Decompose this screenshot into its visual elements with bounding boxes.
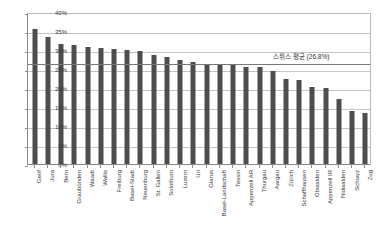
x-axis-tick-mark xyxy=(351,165,352,168)
y-axis-tick-label: 25% xyxy=(43,67,67,73)
x-axis-tick-label: Jura xyxy=(49,170,55,182)
x-axis-tick-mark xyxy=(192,165,193,168)
average-reference-label: 스위스 평균 (26.8%) xyxy=(273,54,329,61)
bar-slot xyxy=(81,14,94,164)
bar[interactable] xyxy=(191,62,196,164)
y-axis-tick-label: 30% xyxy=(43,48,67,54)
y-axis-tick-label: 5% xyxy=(43,143,67,149)
x-axis-tick-mark xyxy=(364,165,365,168)
y-axis-tick-label: 35% xyxy=(43,29,67,35)
y-axis-tick-mark xyxy=(25,71,28,72)
y-axis-tick-mark xyxy=(25,33,28,34)
bar[interactable] xyxy=(164,57,169,164)
bar[interactable] xyxy=(178,60,183,164)
bar[interactable] xyxy=(98,48,103,164)
bar[interactable] xyxy=(72,45,77,164)
bar-slot xyxy=(240,14,253,164)
y-axis-tick-mark xyxy=(25,128,28,129)
x-axis-tick-label: Obwalden xyxy=(314,170,320,197)
y-axis-tick-label: 10% xyxy=(43,124,67,130)
bar[interactable] xyxy=(363,113,368,164)
bar[interactable] xyxy=(270,71,275,164)
x-axis-tick-mark xyxy=(311,165,312,168)
x-axis-tick-mark xyxy=(219,165,220,168)
y-axis-tick-mark xyxy=(25,52,28,53)
bar-slot xyxy=(94,14,107,164)
x-axis-tick-mark xyxy=(272,165,273,168)
bar[interactable] xyxy=(231,65,236,164)
bar-slot xyxy=(359,14,372,164)
x-axis-tick-label: Wallis xyxy=(102,170,108,186)
bar-slot xyxy=(28,14,41,164)
x-axis-tick-label: Basel-Stadt xyxy=(129,170,135,201)
bar[interactable] xyxy=(151,55,156,164)
x-axis-tick-mark xyxy=(47,165,48,168)
x-axis-tick-label: Waadt xyxy=(89,170,95,187)
x-axis-tick-label: Luzern xyxy=(182,170,188,188)
x-axis-tick-label: Zürich xyxy=(288,170,294,187)
x-axis-tick-mark xyxy=(245,165,246,168)
x-axis-tick-mark xyxy=(100,165,101,168)
x-axis-tick-mark xyxy=(60,165,61,168)
bar-slot xyxy=(187,14,200,164)
x-axis-tick-label: Graubünden xyxy=(76,170,82,203)
x-axis-tick-label: Neuenburg xyxy=(142,170,148,200)
x-axis-tick-mark xyxy=(113,165,114,168)
bar-slot xyxy=(253,14,266,164)
bar[interactable] xyxy=(125,50,130,164)
bar-chart: 스위스 평균 (26.8%) 0%5%10%15%20%25%30%35%40%… xyxy=(0,0,385,251)
bar[interactable] xyxy=(310,87,315,164)
x-axis-tick-label: Glarus xyxy=(208,170,214,188)
x-axis-tick-label: Solothurn xyxy=(168,170,174,196)
x-axis-tick-label: Genf xyxy=(36,170,42,183)
bar[interactable] xyxy=(244,67,249,164)
x-axis-tick-mark xyxy=(298,165,299,168)
x-axis-tick-mark xyxy=(87,165,88,168)
x-axis-tick-mark xyxy=(126,165,127,168)
bar[interactable] xyxy=(350,111,355,164)
plot-area xyxy=(27,13,371,165)
bar[interactable] xyxy=(283,79,288,165)
x-axis-tick-label: Schwyz xyxy=(354,170,360,191)
bar-slot xyxy=(68,14,81,164)
bar-slot xyxy=(293,14,306,164)
bar-slot xyxy=(107,14,120,164)
bar-slot xyxy=(346,14,359,164)
x-axis-tick-mark xyxy=(338,165,339,168)
y-axis-tick-label: 40% xyxy=(43,10,67,16)
bar[interactable] xyxy=(138,51,143,164)
x-axis-tick-mark xyxy=(139,165,140,168)
x-axis-tick-mark xyxy=(206,165,207,168)
bar[interactable] xyxy=(336,99,341,164)
x-axis-tick-mark xyxy=(259,165,260,168)
average-reference-line xyxy=(28,64,370,65)
bars-layer xyxy=(28,14,370,164)
x-axis-tick-label: Aargau xyxy=(274,170,280,189)
bar[interactable] xyxy=(111,49,116,164)
x-axis-tick-mark xyxy=(166,165,167,168)
bar[interactable] xyxy=(323,88,328,164)
bar[interactable] xyxy=(32,29,37,164)
bar[interactable] xyxy=(257,67,262,164)
x-axis-tick-label: St. Gallen xyxy=(155,170,161,196)
x-axis-tick-label: Appenzell AR xyxy=(248,170,254,206)
bar-slot xyxy=(213,14,226,164)
bar[interactable] xyxy=(204,64,209,164)
bar-slot xyxy=(147,14,160,164)
y-axis-tick-label: 20% xyxy=(43,86,67,92)
bar-slot xyxy=(319,14,332,164)
y-axis-tick-mark xyxy=(25,90,28,91)
bar-slot xyxy=(332,14,345,164)
x-axis-tick-label: Basel-Landschaft xyxy=(221,170,227,216)
x-axis-tick-label: Zug xyxy=(367,170,373,180)
bar-slot xyxy=(200,14,213,164)
bar[interactable] xyxy=(217,64,222,164)
bar[interactable] xyxy=(297,80,302,164)
x-axis-tick-mark xyxy=(73,165,74,168)
x-axis-tick-mark xyxy=(232,165,233,168)
x-axis-tick-label: Nidwalden xyxy=(340,170,346,198)
x-axis-tick-mark xyxy=(285,165,286,168)
x-axis-tick-label: Freiburg xyxy=(116,170,122,192)
bar-slot xyxy=(174,14,187,164)
bar-slot xyxy=(160,14,173,164)
